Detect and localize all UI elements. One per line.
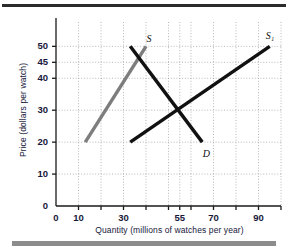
curves-group xyxy=(85,46,270,142)
curve-label-s1: S₁ xyxy=(266,30,274,41)
curve-label-d: D xyxy=(203,148,210,159)
y-tick-label: 45 xyxy=(26,56,48,67)
economics-supply-demand-figure: 010203040455001030557090 SS₁D Price (dol… xyxy=(0,0,288,252)
y-tick-label: 40 xyxy=(26,72,48,83)
chart-plot-area xyxy=(0,0,288,252)
y-tick-label: 50 xyxy=(26,40,48,51)
curve-s xyxy=(85,46,146,142)
curve-label-s: S xyxy=(147,33,152,44)
x-tick-label: 0 xyxy=(46,212,66,223)
x-tick-label: 90 xyxy=(249,212,269,223)
x-axis-title: Quantity (millions of watches per year) xyxy=(62,225,277,235)
x-tick-label: 30 xyxy=(114,212,134,223)
y-tick-label: 20 xyxy=(26,136,48,147)
x-tick-label: 10 xyxy=(69,212,89,223)
y-axis-title: Price (dollars per watch) xyxy=(18,35,28,185)
x-tick-label: 55 xyxy=(170,212,190,223)
y-tick-label: 30 xyxy=(26,104,48,115)
tick-marks-group xyxy=(52,46,281,210)
y-tick-label: 10 xyxy=(26,168,48,179)
bottom-divider-rule xyxy=(12,241,276,246)
x-tick-label: 70 xyxy=(204,212,224,223)
curve-s1 xyxy=(130,46,270,142)
y-tick-label: 0 xyxy=(26,200,48,211)
curve-d xyxy=(130,46,202,142)
